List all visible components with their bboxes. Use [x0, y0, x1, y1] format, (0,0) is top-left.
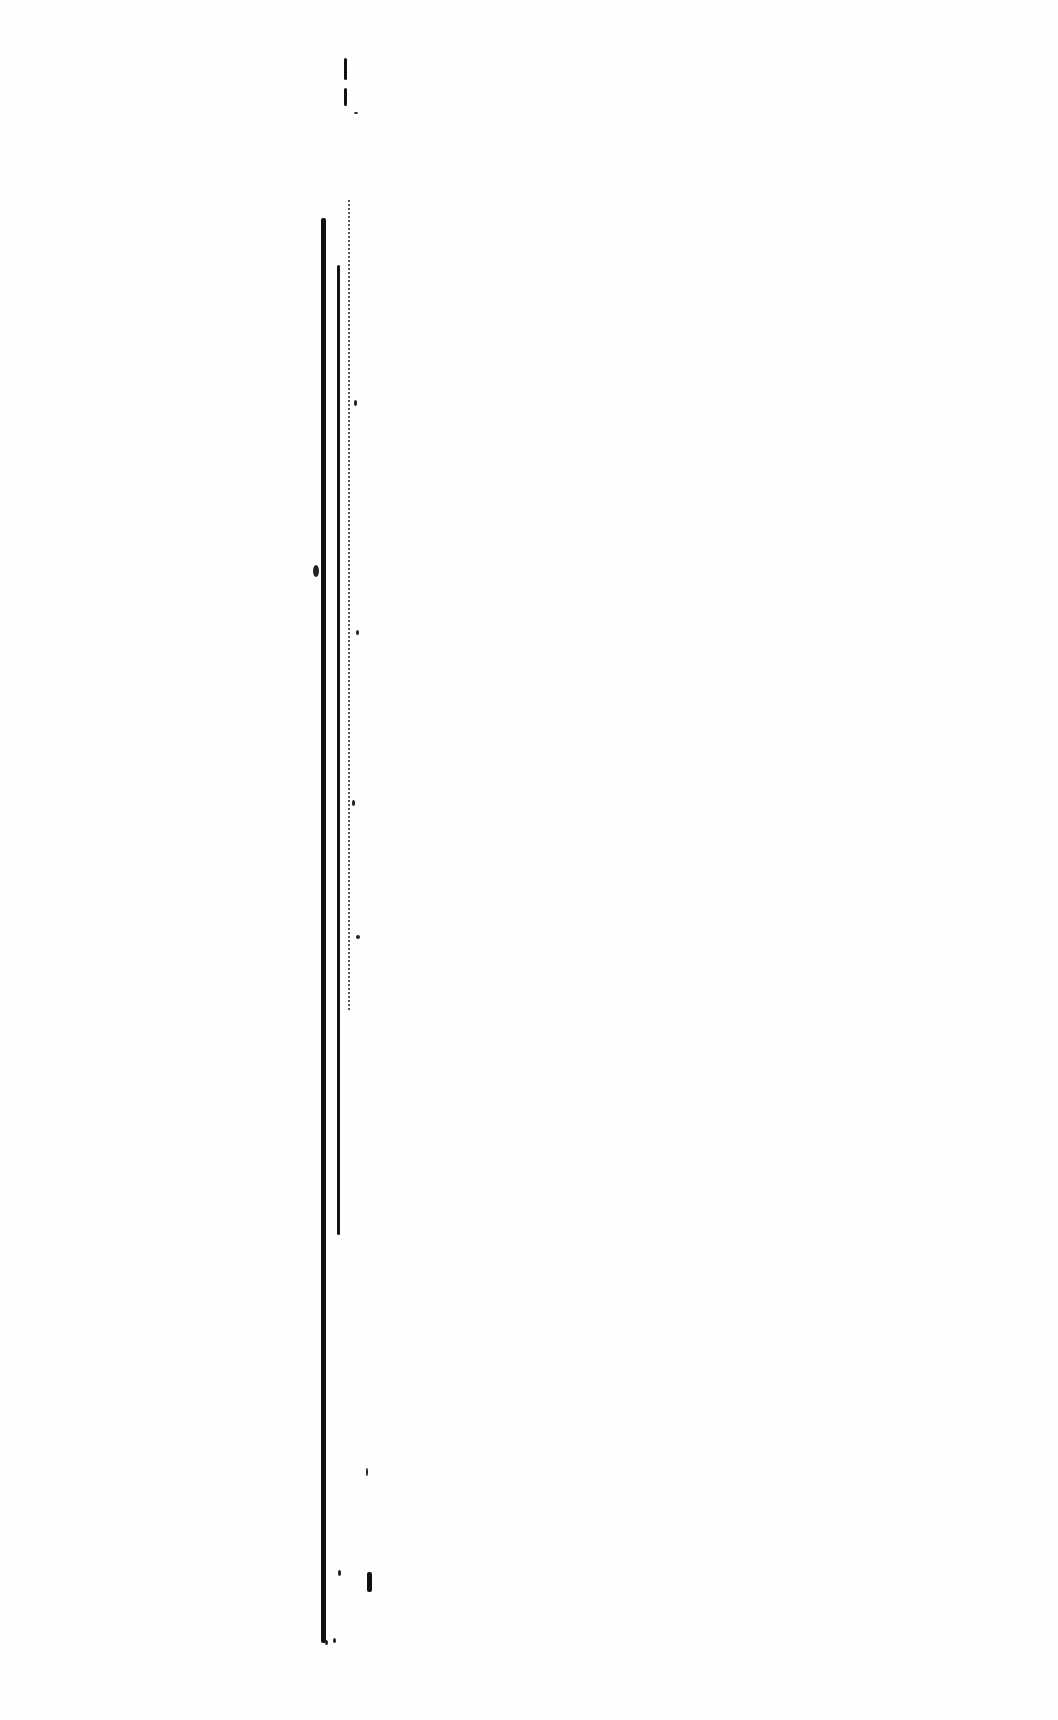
- speck: [354, 400, 357, 406]
- gutter-line-secondary: [337, 265, 340, 1235]
- speck: [325, 1640, 328, 1645]
- top-mark-1: [344, 58, 347, 80]
- speck: [338, 1570, 341, 1576]
- top-speck: [354, 112, 358, 114]
- bottom-mark: [367, 1572, 372, 1592]
- gutter-line-main: [321, 218, 326, 1643]
- scanned-page: [0, 0, 1058, 1720]
- speck: [356, 935, 360, 939]
- top-mark-2: [344, 88, 347, 106]
- speck: [352, 800, 355, 806]
- speck: [333, 1638, 336, 1643]
- speck: [356, 630, 359, 635]
- speck: [366, 1468, 368, 1476]
- gutter-dotted-line: [348, 200, 350, 1010]
- speck: [313, 565, 319, 577]
